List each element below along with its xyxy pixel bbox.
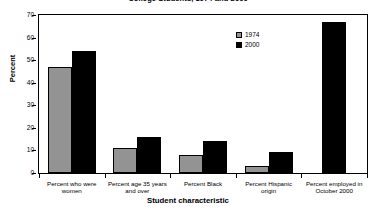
bar-1974 <box>179 155 203 173</box>
legend-swatch-icon <box>236 32 242 38</box>
legend-item: 2000 <box>236 40 259 49</box>
y-axis-tick-mark <box>32 150 36 151</box>
y-axis-tick-label: 70 <box>0 11 34 19</box>
y-axis-title: Percent <box>8 39 17 99</box>
y-axis-tick-mark <box>32 15 36 16</box>
legend-swatch-icon <box>236 42 242 48</box>
x-axis-tick-label: Percent Black <box>166 180 240 187</box>
y-axis-tick-mark <box>32 128 36 129</box>
x-axis-tick-mark <box>39 174 40 178</box>
bar-2000 <box>203 141 227 173</box>
y-axis-tick-mark <box>32 105 36 106</box>
x-axis-tick-mark <box>301 174 302 178</box>
x-axis-tick-label: Percent age 35 years and over <box>101 180 175 195</box>
y-axis-tick-label: 30 <box>0 101 34 109</box>
x-axis-tick-mark <box>236 174 237 178</box>
bar-2000 <box>322 22 346 173</box>
y-axis-tick-label: 10 <box>0 146 34 154</box>
bar-group <box>39 15 105 173</box>
y-axis-tick-mark <box>32 173 36 174</box>
bar-chart-figure: College Students, 1974 and 2000 Percent … <box>0 0 376 209</box>
bar-2000 <box>72 51 96 173</box>
y-axis-tick-mark <box>32 60 36 61</box>
x-axis-tick-label: Percent Hispanic origin <box>232 180 306 195</box>
bar-group <box>170 15 236 173</box>
y-axis-tick-mark <box>32 38 36 39</box>
x-axis-tick-mark <box>367 174 368 178</box>
bar-group <box>105 15 171 173</box>
bar-2000 <box>269 152 293 173</box>
legend-label: 2000 <box>245 41 259 48</box>
chart-legend: 19742000 <box>236 30 259 50</box>
x-axis-tick-label: Percent employed in October 2000 <box>297 180 371 195</box>
legend-label: 1974 <box>245 31 259 38</box>
x-axis-tick-mark <box>105 174 106 178</box>
x-axis-tick-label: Percent who were women <box>35 180 109 195</box>
y-axis-tick-label: 20 <box>0 124 34 132</box>
bar-1974 <box>48 67 72 173</box>
y-axis-tick-mark <box>32 83 36 84</box>
bar-group <box>301 15 367 173</box>
y-axis-tick-label: 40 <box>0 79 34 87</box>
bar-1974 <box>245 166 269 173</box>
bar-1974 <box>113 148 137 173</box>
x-axis-title: Student characteristic <box>0 196 376 205</box>
x-axis-tick-mark <box>170 174 171 178</box>
bars-layer <box>39 15 367 173</box>
y-axis-tick-label: 60 <box>0 34 34 42</box>
chart-title: College Students, 1974 and 2000 <box>0 0 376 3</box>
y-axis-tick-label: 0 <box>0 169 34 177</box>
y-axis-tick-label: 50 <box>0 56 34 64</box>
bar-2000 <box>137 137 161 173</box>
legend-item: 1974 <box>236 30 259 39</box>
